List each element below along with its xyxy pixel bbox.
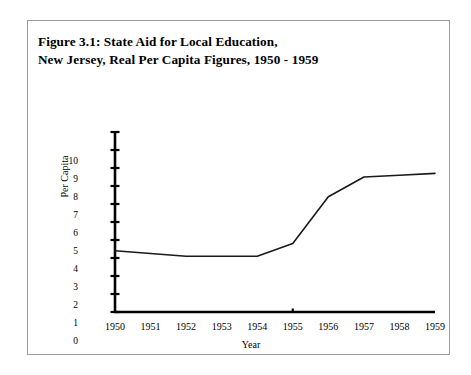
figure-frame: Figure 3.1: State Aid for Local Educatio… — [27, 20, 450, 355]
axes-group — [111, 131, 436, 313]
figure-title-line-2: New Jersey, Real Per Capita Figures, 195… — [38, 51, 428, 69]
data-line — [115, 173, 435, 256]
x-axis-tick-label: 1951 — [131, 321, 171, 332]
x-axis-tick-label: 1958 — [379, 321, 419, 332]
x-axis-title: Year — [61, 339, 441, 350]
x-axis-tick-label: 1952 — [166, 321, 206, 332]
x-axis-tick-label: 1959 — [415, 321, 455, 332]
x-axis-tick-label: 1955 — [273, 321, 313, 332]
x-axis-tick-labels: 1950195119521953195419551956195719581959 — [61, 321, 441, 335]
line-chart-svg — [61, 103, 436, 338]
data-series-group — [115, 173, 435, 256]
plot-area — [61, 103, 436, 338]
x-axis-tick-label: 1953 — [202, 321, 242, 332]
x-axis-tick-label: 1954 — [237, 321, 277, 332]
x-axis-tick-label: 1950 — [95, 321, 135, 332]
x-axis-tick-label: 1956 — [308, 321, 348, 332]
x-axis-tick-label: 1957 — [344, 321, 384, 332]
figure-title-line-1: Figure 3.1: State Aid for Local Educatio… — [38, 33, 428, 51]
figure-title: Figure 3.1: State Aid for Local Educatio… — [38, 33, 428, 69]
